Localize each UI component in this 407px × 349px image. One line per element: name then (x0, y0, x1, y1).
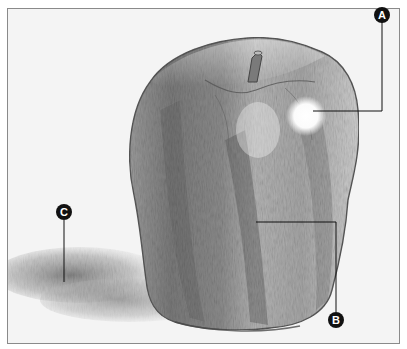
callout-a-label: A (378, 9, 386, 21)
apple-highlight (286, 96, 326, 136)
callout-c-label: C (60, 206, 68, 218)
callout-b-label: B (332, 314, 340, 326)
apple-sketch-illustration: A B C (0, 0, 407, 349)
